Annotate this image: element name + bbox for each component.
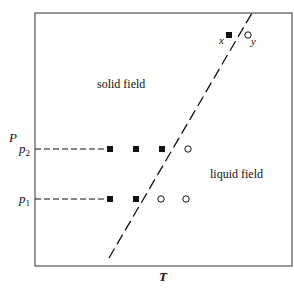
y-axis-label: P	[8, 130, 17, 145]
solid-field-label: solid field	[97, 77, 145, 91]
solid-point	[133, 146, 139, 152]
x-marker-point	[226, 32, 232, 38]
solid-point	[107, 146, 113, 152]
phase-boundary-line	[109, 13, 252, 258]
liquid-point	[158, 196, 164, 202]
phase-diagram: x y solid field liquid field P T p2 p1	[0, 0, 294, 289]
solid-point	[107, 196, 113, 202]
p2-label: p2	[18, 141, 30, 158]
solid-point	[159, 146, 165, 152]
plot-frame	[35, 13, 292, 266]
liquid-point	[183, 196, 189, 202]
x-marker-label: x	[218, 34, 224, 46]
solid-point	[133, 196, 139, 202]
y-marker-label: y	[250, 35, 256, 47]
x-axis-label: T	[159, 269, 168, 284]
liquid-field-label: liquid field	[210, 167, 263, 181]
p1-label: p1	[18, 191, 30, 208]
liquid-point	[185, 146, 191, 152]
